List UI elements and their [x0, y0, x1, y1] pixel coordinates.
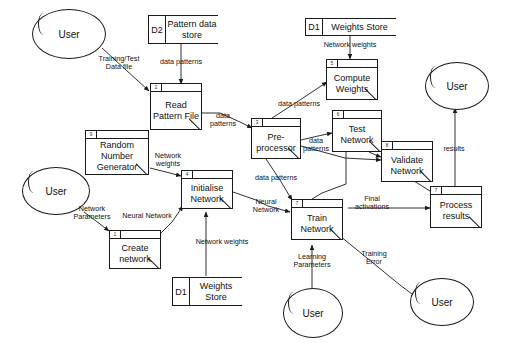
entity-label: User [431, 297, 452, 308]
process-label: Compute Weights [327, 68, 377, 99]
flow-label-data-patterns-pre-compute: data patterns [268, 100, 330, 108]
process-number: 4 [182, 171, 193, 179]
arrow-network-weights-rng-init [150, 168, 181, 176]
process-number: 9 [86, 131, 97, 139]
process-create-network[interactable]: 1 Create network [109, 230, 161, 269]
process-label: Train Network [292, 208, 342, 239]
flow-label-data-patterns-pre-test: data patterns [297, 137, 335, 154]
data-store-name: Pattern data store [166, 16, 218, 43]
data-store-ref: D2 [149, 16, 166, 43]
flow-label-network-weights-store-init: Network weights [184, 238, 260, 246]
flow-label-network-weights-rng-init: Network weights [148, 152, 188, 169]
data-store-weights-store-top[interactable]: D1 Weights Store [305, 18, 396, 36]
data-store-name: Weights Store [190, 278, 242, 305]
entity-user-bottom-right[interactable]: User [410, 278, 474, 326]
process-label: Test Network [333, 119, 381, 151]
process-number: 1 [110, 231, 121, 239]
entity-label: User [45, 186, 66, 197]
flow-label-final-activations: Final activations [345, 195, 399, 212]
entity-label: User [446, 81, 467, 92]
process-label: Random Number Generator [86, 139, 148, 174]
flow-label-data-patterns-store-read: data patterns [150, 58, 212, 66]
process-read-pattern-file[interactable]: 2 Read Pattern File [150, 83, 202, 130]
process-test-network[interactable]: 6 Test Network [332, 110, 382, 152]
flow-label-training-test-data-file: Training/Test Data file [90, 55, 148, 72]
dfd-canvas: User User User User User D2 Pattern data… [0, 0, 506, 343]
process-initialise-network[interactable]: 4 Initialise Network [181, 170, 233, 209]
process-validate-network[interactable]: 8 Validate Network [381, 141, 433, 182]
flow-label-data-patterns-pre-train: data patterns [245, 174, 307, 182]
data-store-weights-store-bottom[interactable]: D1 Weights Store [172, 277, 242, 306]
flow-label-learning-parameters: Learning Parameters [283, 253, 341, 270]
flow-label-neural-network-init-train: Neural Network [246, 198, 286, 215]
entity-user-right[interactable]: User [425, 62, 489, 110]
process-label: Initialise Network [182, 179, 232, 208]
entity-label: User [302, 308, 323, 319]
flow-label-neural-network-create-init: Neural Network [116, 212, 178, 220]
process-label: Read Pattern File [151, 92, 201, 129]
process-number: 6 [333, 111, 344, 119]
data-store-ref: D1 [306, 19, 323, 35]
process-random-number-generator[interactable]: 9 Random Number Generator [85, 130, 149, 175]
process-process-results[interactable]: 7 Process results [430, 186, 482, 228]
entity-label: User [58, 29, 79, 40]
flow-label-network-parameters: Network Parameters [69, 205, 115, 222]
process-label: Create network [110, 239, 160, 268]
process-compute-weights[interactable]: 5 Compute Weights [326, 59, 378, 100]
line-validate-process [414, 181, 430, 191]
line-test-junction-train [312, 184, 346, 199]
process-number: 3 [252, 119, 263, 127]
flow-label-training-error: Training Error [352, 250, 396, 267]
process-label: Validate Network [382, 150, 432, 181]
entity-user-bottom-mid[interactable]: User [283, 288, 343, 338]
data-store-pattern-data-store[interactable]: D2 Pattern data store [148, 15, 218, 44]
process-label: Pre- processor [252, 127, 300, 158]
data-store-name: Weights Store [323, 19, 396, 35]
flow-label-network-weights-store-compute: Network weights [312, 41, 388, 49]
process-number: 8 [382, 142, 393, 150]
process-train-network[interactable]: 7 Train Network [291, 199, 343, 240]
process-number: 7 [431, 187, 442, 195]
process-label: Process results [431, 195, 481, 227]
process-number: 5 [327, 60, 338, 68]
process-number: 2 [151, 84, 162, 92]
data-store-ref: D1 [173, 278, 190, 305]
arrow-test-validate [369, 152, 381, 157]
flow-label-data-patterns-read-pre: data patterns [203, 112, 243, 129]
process-number: 7 [292, 200, 303, 208]
process-pre-processor[interactable]: 3 Pre- processor [251, 118, 301, 159]
entity-user-top-left[interactable]: User [32, 9, 106, 59]
flow-label-results: results [432, 145, 476, 153]
